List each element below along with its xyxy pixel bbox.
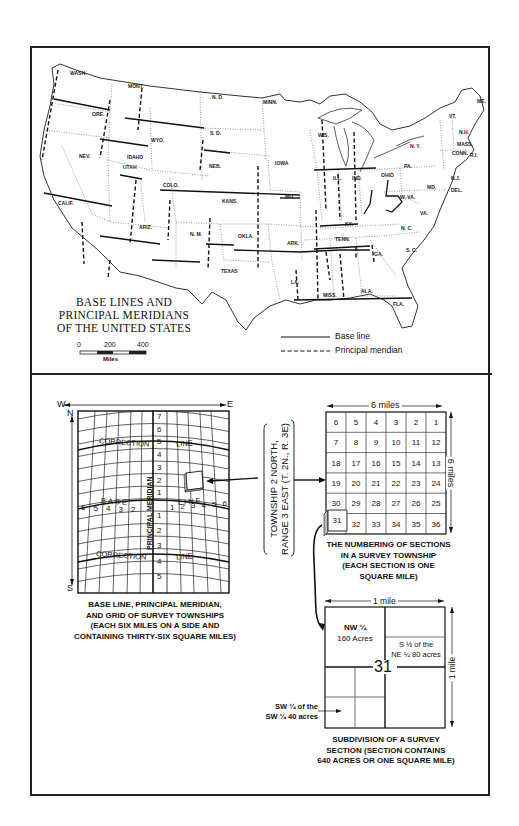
state-label: N. M. [190, 231, 203, 237]
sections-caption: THE NUMBERING OF SECTIONS IN A SURVEY TO… [316, 540, 461, 582]
us-outline [40, 64, 484, 330]
township-grid-caption: BASE LINE, PRINCIPAL MERIDIAN, AND GRID … [60, 600, 250, 642]
ne-half-label: S ½ of the NE ¼ 80 acres [386, 640, 446, 660]
subdivision-width-label: 1 mile [371, 596, 398, 606]
principal-meridian-label: PRINCIPAL MERIDIAN [146, 476, 153, 550]
state-label: TEXAS [221, 268, 238, 274]
section-number: 28 [372, 499, 381, 508]
state-label: S. D. [210, 130, 222, 136]
section-number: 14 [412, 459, 421, 468]
township-number: 4 [202, 501, 206, 510]
township-number: 5 [157, 437, 161, 446]
section-number: 18 [332, 459, 341, 468]
scale-bar [80, 351, 146, 354]
township-highlight [184, 471, 203, 492]
section-number: 9 [374, 438, 379, 447]
state-label: IOWA [275, 160, 289, 166]
township-number: 3 [119, 505, 123, 514]
nw-quarter-label: NW ¼ 160 Acres [326, 622, 384, 644]
township-number: 3 [191, 501, 195, 510]
state-label: ILL. [333, 175, 342, 181]
section-number: 32 [352, 520, 361, 529]
section-number: 4 [374, 418, 379, 427]
ohio-survey-lines [364, 180, 402, 214]
section-number: 2 [414, 418, 419, 427]
section-number: 15 [392, 459, 401, 468]
state-label: ARIZ. [139, 224, 153, 230]
state-label: MASS. [457, 141, 473, 147]
compass-east: E [227, 399, 233, 409]
state-label: OKLA. [238, 233, 254, 239]
state-label: MD. [427, 184, 437, 190]
state-label: IND. [352, 175, 363, 181]
state-label: N. Y. [410, 143, 421, 149]
section-number: 16 [372, 459, 381, 468]
township-number: 1 [170, 503, 174, 512]
section-number: 31 [374, 658, 392, 676]
state-label: OHIO [381, 172, 394, 178]
township-number: 5 [94, 504, 98, 513]
township-number: 3 [157, 541, 161, 550]
legend-base-line-label: Base line [335, 331, 370, 341]
state-label: TENN. [335, 236, 351, 242]
state-label: GA. [374, 251, 384, 257]
section-number: 5 [354, 418, 359, 427]
state-label: MINN. [263, 99, 278, 105]
sections-width-label: 6 miles [369, 400, 402, 410]
compass-west: W [57, 399, 66, 409]
section-number: 23 [412, 479, 421, 488]
section-number: 35 [412, 520, 421, 529]
state-label: MISS. [323, 292, 337, 298]
state-label: WASH. [70, 70, 87, 76]
state-label: CONN. [452, 150, 469, 156]
state-label: IDAHO [127, 154, 143, 160]
state-label: W. VA. [400, 194, 416, 200]
correction-line-north-right: LINE [176, 438, 193, 448]
state-label: MO. [285, 193, 295, 199]
section-number: 19 [332, 479, 341, 488]
section-number: 3 [394, 418, 399, 427]
compass-north: N [67, 408, 74, 418]
state-label: VA. [420, 210, 429, 216]
section-number: 27 [392, 499, 401, 508]
state-label: KY. [345, 221, 353, 227]
township-number: 1 [157, 511, 161, 520]
township-number: 2 [157, 526, 161, 535]
principal-meridians [42, 70, 374, 300]
sw-callout-label: SW ¼ of the SW ¼ 40 acres [252, 702, 318, 722]
legend-meridian-label: Principal meridian [335, 345, 403, 355]
state-label: ARK. [287, 240, 300, 246]
section-number: 20 [352, 479, 361, 488]
township-number: 3 [157, 463, 161, 472]
state-label: N.H. [459, 129, 470, 135]
township-number: 4 [157, 557, 161, 566]
section-number: 30 [332, 499, 341, 508]
state-label: KANS. [222, 198, 238, 204]
township-number: 5 [157, 572, 161, 581]
section-number: 33 [372, 520, 381, 529]
section-number: 7 [334, 438, 339, 447]
subdivision-height-label: 1 mile [447, 655, 457, 682]
township-label: TOWNSHIP 2 NORTH, RANGE 3 EAST (T. 2N., … [268, 423, 290, 555]
state-label: LA. [291, 279, 300, 285]
township-number: 2 [157, 476, 161, 485]
section-number: 11 [412, 438, 421, 447]
township-number: 5 [212, 500, 216, 509]
state-label: ORE. [92, 111, 105, 117]
state-labels: WASH.MONT.N. D.MINN.ORE.WYO.S. D.IDAHONE… [58, 70, 487, 307]
state-label: NEV. [79, 153, 91, 159]
section-number: 6 [334, 418, 339, 427]
section-number: 8 [354, 438, 359, 447]
state-label: UTAH [123, 164, 137, 170]
township-number: 2 [181, 502, 185, 511]
section-number: 1 [434, 418, 439, 427]
state-label: MONT. [128, 83, 144, 89]
township-number: 7 [157, 412, 161, 421]
township-number: 2 [131, 505, 135, 514]
state-label: ALA. [361, 288, 373, 294]
state-label: N.J. [451, 175, 461, 181]
township-number: 4 [106, 504, 110, 513]
correction-line-south-right: LINE [176, 551, 193, 561]
state-label: CALIF. [58, 200, 74, 206]
township-number: 6 [157, 425, 161, 434]
